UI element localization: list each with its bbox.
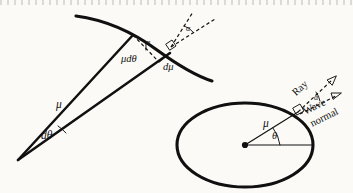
ray-arrowhead (327, 76, 336, 85)
radius-lower-line (18, 53, 170, 160)
wave-normal-dashed-line (300, 96, 336, 114)
radius-extension-dashed-left (171, 19, 215, 47)
polar-angle-arc (273, 128, 280, 145)
centre-point-dot (242, 142, 248, 148)
figure-canvas (0, 0, 353, 193)
radius-upper-line (18, 35, 133, 160)
left-panel-group (18, 12, 215, 160)
right-panel-group (177, 76, 341, 187)
outer-alpha-angle-arc (184, 26, 193, 32)
radius-vector-line (245, 112, 298, 145)
ray-dashed-line (298, 80, 332, 112)
figure-root: μ dθ μdθ dμ α α μ θ α Ray Wave normal (0, 0, 353, 193)
surface-normal-dashed-left (171, 12, 193, 47)
wave-normal-arrowhead (331, 93, 341, 99)
